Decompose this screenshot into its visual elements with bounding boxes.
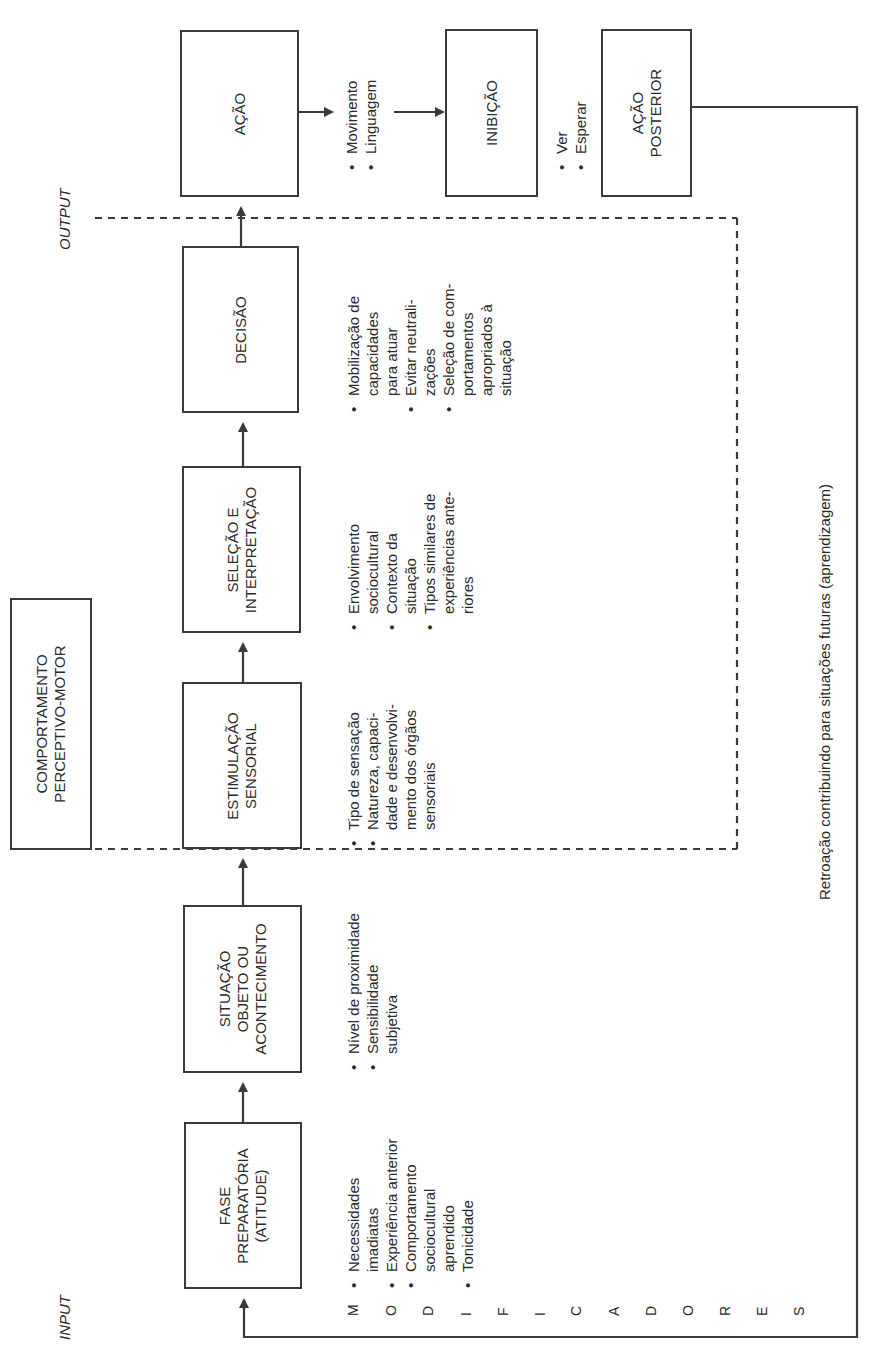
list-item: Sensibilidadesubjetiva bbox=[363, 913, 401, 1072]
list-item: Tonicidade bbox=[458, 1139, 477, 1290]
box-inibicao: INIBIÇÃO bbox=[445, 29, 538, 197]
title-label: COMPORTAMENTO PERCEPTIVO-MOTOR bbox=[33, 645, 69, 802]
list-item: Movimento bbox=[342, 80, 361, 172]
output-label: OUTPUT bbox=[56, 188, 73, 250]
list-acao: Movimento Linguagem bbox=[342, 80, 380, 172]
list-item: Mobilização decapacidadespara atuar bbox=[344, 283, 401, 414]
list-item: Evitar neutrali-zações bbox=[401, 283, 439, 414]
list-item: Tipo de sensação bbox=[344, 704, 363, 848]
box-decisao: DECISÃO bbox=[182, 246, 299, 413]
list-item: Nível de proximidade bbox=[344, 913, 363, 1072]
box-situacao: SITUAÇÃOOBJETO OUACONTECIMENTO bbox=[183, 905, 302, 1073]
list-inibicao: Ver Esperar bbox=[552, 101, 590, 172]
box-acao-posterior: AÇÃOPOSTERIOR bbox=[601, 29, 692, 197]
box-selecao-interpretacao: SELEÇÃO EINTERPRETAÇÃO bbox=[182, 466, 301, 633]
feedback-line bbox=[244, 107, 857, 1337]
box-acao: AÇÃO bbox=[180, 30, 299, 197]
list-item: Envolvimentosociocultural bbox=[344, 491, 382, 632]
list-item: Seleção de com-portamentosapropriados às… bbox=[439, 283, 515, 414]
list-situacao: Nível de proximidade Sensibilidadesubjet… bbox=[344, 913, 401, 1072]
box-estimulacao-sensorial: ESTIMULAÇÃOSENSORIAL bbox=[182, 682, 302, 849]
title-box: COMPORTAMENTO PERCEPTIVO-MOTOR bbox=[10, 598, 92, 850]
list-item: Esperar bbox=[571, 101, 590, 172]
list-item: Contexto dasituação bbox=[382, 491, 420, 632]
box-fase-preparatoria: FASEPREPARATÓRIA(ATITUDE) bbox=[184, 1122, 302, 1289]
feedback-label: Retroação contribuindo para situações fu… bbox=[816, 484, 833, 900]
list-item: Ver bbox=[552, 101, 571, 172]
list-item: Comportamentosocioculturalaprendido bbox=[401, 1139, 458, 1290]
list-item: Linguagem bbox=[361, 80, 380, 172]
list-item: Natureza, capaci-dade e desenvolvi-mento… bbox=[363, 704, 439, 848]
input-label: INPUT bbox=[56, 1295, 73, 1340]
list-decisao: Mobilização decapacidadespara atuar Evit… bbox=[344, 283, 515, 414]
list-selecao: Envolvimentosociocultural Contexto dasit… bbox=[344, 491, 477, 632]
list-estimulacao: Tipo de sensação Natureza, capaci-dade e… bbox=[344, 704, 439, 848]
list-item: Necessidadesimadiatas bbox=[344, 1139, 382, 1290]
list-item: Tipos similares deexperiências ante-rior… bbox=[420, 491, 477, 632]
list-item: Experiência anterior bbox=[382, 1139, 401, 1290]
list-fase: Necessidadesimadiatas Experiência anteri… bbox=[344, 1139, 477, 1290]
